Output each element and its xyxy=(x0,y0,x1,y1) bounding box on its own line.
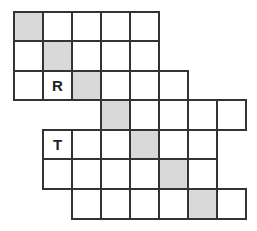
grid-cell[interactable] xyxy=(158,188,189,220)
grid-cell[interactable]: T xyxy=(42,129,73,160)
grid-cell[interactable] xyxy=(71,129,102,160)
shaded-cell[interactable] xyxy=(100,99,131,131)
grid-cell[interactable] xyxy=(13,70,44,101)
grid-cell[interactable] xyxy=(13,40,44,72)
grid-cell[interactable] xyxy=(71,11,102,42)
grid-cell[interactable] xyxy=(129,158,160,190)
grid-cell[interactable] xyxy=(187,99,218,131)
grid-cell[interactable] xyxy=(71,40,102,72)
shaded-cell[interactable] xyxy=(71,70,102,101)
grid-cell[interactable] xyxy=(42,11,73,42)
crossword-grid: RT xyxy=(0,0,257,231)
shaded-cell[interactable] xyxy=(158,158,189,190)
grid-cell[interactable] xyxy=(129,70,160,101)
grid-cell[interactable] xyxy=(129,188,160,220)
grid-cell[interactable] xyxy=(100,40,131,72)
grid-cell[interactable] xyxy=(71,188,102,220)
shaded-cell[interactable] xyxy=(187,188,218,220)
shaded-cell[interactable] xyxy=(42,40,73,72)
grid-cell[interactable] xyxy=(216,188,247,220)
grid-cell[interactable] xyxy=(216,99,247,131)
grid-cell[interactable]: R xyxy=(42,70,73,101)
shaded-cell[interactable] xyxy=(13,11,44,42)
grid-cell[interactable] xyxy=(100,70,131,101)
grid-cell[interactable] xyxy=(129,99,160,131)
grid-cell[interactable] xyxy=(187,129,218,160)
grid-cell[interactable] xyxy=(158,70,189,101)
grid-cell[interactable] xyxy=(100,11,131,42)
shaded-cell[interactable] xyxy=(129,129,160,160)
grid-cell[interactable] xyxy=(187,158,218,190)
grid-cell[interactable] xyxy=(100,188,131,220)
grid-cell[interactable] xyxy=(100,158,131,190)
grid-cell[interactable] xyxy=(129,11,160,42)
grid-cell[interactable] xyxy=(71,158,102,190)
grid-cell[interactable] xyxy=(158,99,189,131)
grid-cell[interactable] xyxy=(100,129,131,160)
grid-cell[interactable] xyxy=(42,158,73,190)
grid-cell[interactable] xyxy=(158,129,189,160)
grid-cell[interactable] xyxy=(129,40,160,72)
